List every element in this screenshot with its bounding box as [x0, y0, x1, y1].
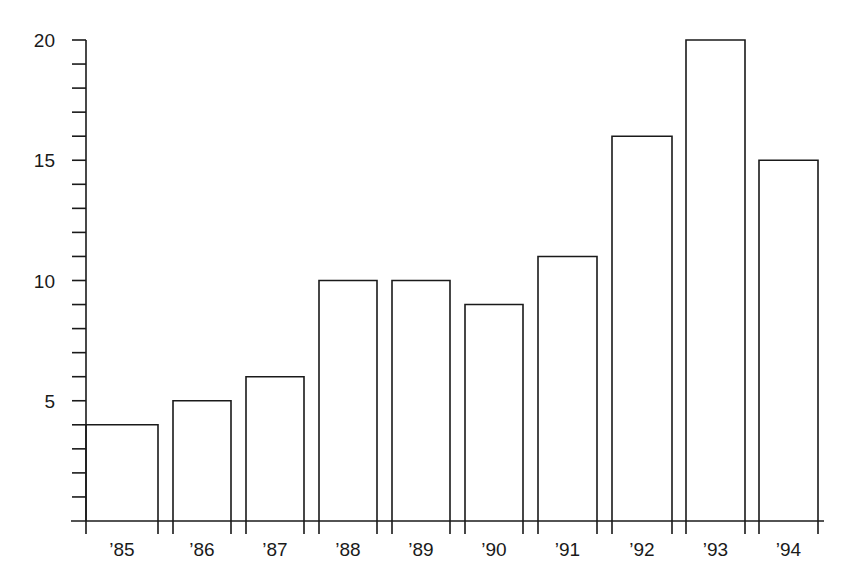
x-tick-label: ’93	[703, 539, 728, 560]
y-tick-label: 15	[34, 150, 55, 171]
x-tick-label: ’87	[262, 539, 287, 560]
y-tick-label: 10	[34, 271, 55, 292]
x-tick-label: ’92	[629, 539, 654, 560]
bar-89	[392, 281, 450, 535]
bar-93	[686, 40, 745, 534]
bar-88	[319, 281, 377, 535]
bar-85	[86, 425, 158, 534]
x-tick-label: ’90	[481, 539, 506, 560]
x-tick-label: ’91	[555, 539, 580, 560]
x-tick-label: ’86	[189, 539, 214, 560]
bar-87	[246, 377, 304, 534]
bars-group: ’85’86’87’88’89’90’91’92’93’94	[86, 40, 818, 560]
bar-chart: ’85’86’87’88’89’90’91’92’93’94 5101520	[0, 0, 848, 582]
bar-91	[538, 256, 597, 534]
x-tick-label: ’94	[776, 539, 802, 560]
bar-90	[465, 305, 523, 534]
y-tick-label: 5	[44, 391, 55, 412]
bar-86	[173, 401, 231, 534]
bar-92	[612, 136, 672, 534]
x-tick-label: ’88	[335, 539, 360, 560]
bar-94	[759, 160, 818, 534]
x-tick-label: ’85	[109, 539, 134, 560]
y-tick-label: 20	[34, 30, 55, 51]
x-tick-label: ’89	[408, 539, 433, 560]
y-axis: 5101520	[34, 30, 86, 521]
